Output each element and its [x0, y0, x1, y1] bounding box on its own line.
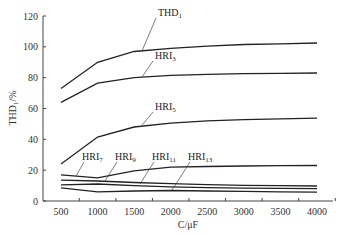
x-tick-label: 1500 [124, 206, 144, 217]
leader-line [105, 162, 117, 181]
series-label-hri11: HRI11 [152, 151, 176, 164]
line-chart: 0204060801001205001000150020002500300035… [0, 0, 345, 236]
x-tick-label: 500 [54, 206, 69, 217]
series-label-hri5: HRI5 [155, 101, 176, 114]
y-tick-label: 40 [28, 134, 38, 145]
y-tick-label: 120 [23, 11, 38, 22]
series-label-hri3: HRI3 [155, 50, 176, 63]
series-lines [61, 43, 317, 192]
y-tick-label: 100 [23, 41, 38, 52]
series-line-hri7 [61, 166, 317, 178]
series-line-hri9 [61, 180, 317, 186]
series-labels: THD1HRI3HRI5HRI7HRI9HRI11HRI13 [76, 7, 213, 190]
y-tick-label: 0 [33, 196, 38, 207]
y-tick-label: 80 [28, 72, 38, 83]
series-label-hri7: HRI7 [82, 151, 103, 164]
series-label-hri9: HRI9 [115, 151, 136, 164]
x-tick-label: 4000 [307, 206, 327, 217]
y-tick-label: 20 [28, 165, 38, 176]
leader-line [172, 162, 190, 190]
x-tick-label: 3000 [234, 206, 254, 217]
x-axis-title: C/μF [178, 219, 199, 230]
y-tick-label: 60 [28, 103, 38, 114]
y-axis-title: THD₁/% [7, 90, 18, 125]
x-tick-label: 2000 [161, 206, 181, 217]
x-tick-label: 1000 [88, 206, 108, 217]
series-line-thd1 [61, 43, 317, 89]
series-label-thd1: THD1 [158, 7, 183, 20]
leader-line [142, 18, 156, 51]
series-line-hri3 [61, 73, 317, 102]
leader-line [142, 61, 153, 77]
x-tick-label: 2500 [197, 206, 217, 217]
x-tick-label: 3500 [270, 206, 290, 217]
series-label-hri13: HRI13 [188, 151, 213, 164]
leader-line [142, 112, 153, 125]
leader-line [76, 162, 84, 176]
leader-line [140, 162, 154, 184]
